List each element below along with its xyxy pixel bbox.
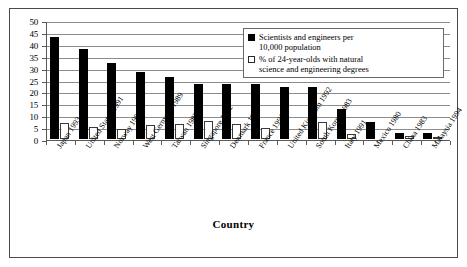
bar-scientists-engineers xyxy=(395,133,404,139)
y-axis-tick-label: 30 xyxy=(29,65,38,74)
y-axis-tick-label: 10 xyxy=(29,113,38,122)
bar-scientists-engineers xyxy=(423,133,432,139)
y-axis-tick-label: 45 xyxy=(29,29,38,38)
legend-item-degree-percentage: % of 24-year-olds with natural science a… xyxy=(248,54,439,74)
chart-figure: 05101520253035404550 Japan 1993United St… xyxy=(0,0,467,267)
legend-line-2: science and engineering degrees xyxy=(259,64,369,74)
y-axis-tick-label: 0 xyxy=(34,137,38,146)
legend-item-label: % of 24-year-olds with natural science a… xyxy=(259,54,369,74)
y-axis-tick-label: 40 xyxy=(29,41,38,50)
chart-legend: Scientists and engineers per 10,000 popu… xyxy=(243,28,444,78)
x-axis-tick-mark xyxy=(450,141,451,145)
legend-line-2: 10,000 population xyxy=(259,42,321,52)
legend-item-scientists-engineers: Scientists and engineers per 10,000 popu… xyxy=(248,32,439,52)
y-axis-tick-label: 20 xyxy=(29,89,38,98)
y-axis-tick-label: 25 xyxy=(29,77,38,86)
y-axis: 05101520253035404550 xyxy=(0,22,46,141)
x-axis-title: Country xyxy=(0,218,467,230)
bar-scientists-engineers xyxy=(79,49,88,139)
bar-scientists-engineers xyxy=(136,72,145,139)
y-axis-tick-label: 50 xyxy=(29,18,38,27)
y-axis-tick-label: 5 xyxy=(34,125,38,134)
y-axis-tick-label: 15 xyxy=(29,101,38,110)
bar-scientists-engineers xyxy=(50,37,59,139)
legend-swatch-filled-black-square xyxy=(248,34,255,41)
x-axis-category-labels: Japan 1993United States 1991Norway 1992W… xyxy=(46,145,450,217)
legend-line-1: Scientists and engineers per xyxy=(259,32,354,42)
legend-line-1: % of 24-year-olds with natural xyxy=(259,54,363,64)
legend-swatch-outlined-white-square xyxy=(248,56,255,63)
y-axis-tick-label: 35 xyxy=(29,53,38,62)
legend-item-label: Scientists and engineers per 10,000 popu… xyxy=(259,32,354,52)
